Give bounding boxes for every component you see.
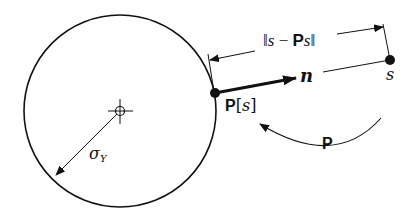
sigma-subscript: Y xyxy=(100,153,107,164)
norm-close: ‖ xyxy=(310,31,315,50)
norm-P: P xyxy=(293,31,304,50)
source-point-label: s xyxy=(386,67,394,83)
radius-arrow xyxy=(56,114,117,175)
projected-point-var: s xyxy=(242,96,250,115)
normal-extension-line xyxy=(323,60,390,72)
norm-minus: − xyxy=(274,31,292,50)
projected-point-P: P xyxy=(225,97,236,114)
source-point-dot xyxy=(385,55,395,65)
projection-curved-arrow xyxy=(260,118,381,146)
projected-point-label: P[s] xyxy=(225,98,256,114)
distance-arrow-right xyxy=(337,27,383,34)
projection-operator-label: P xyxy=(322,136,333,152)
distance-arrow-left xyxy=(210,51,255,60)
normal-label: n xyxy=(300,67,313,85)
sigma-symbol: σ xyxy=(89,144,100,163)
projected-point-dot xyxy=(210,88,220,98)
projection-diagram xyxy=(0,0,417,216)
normal-vector-arrow xyxy=(215,78,296,93)
crosshair-circle-icon xyxy=(108,99,133,124)
distance-label: ‖s − Ps‖ xyxy=(263,32,315,49)
projected-point-close-bracket: ] xyxy=(250,96,256,115)
radius-label: σY xyxy=(89,146,107,164)
source-extension-line xyxy=(383,24,390,60)
